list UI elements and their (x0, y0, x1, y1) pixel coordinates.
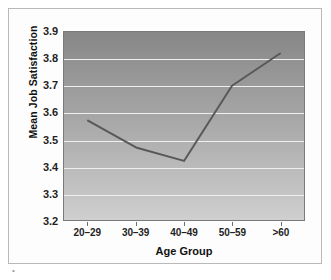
x-tick-label: >60 (253, 227, 309, 238)
y-tick-label: 3.2 (2, 216, 58, 227)
y-tick-label: 3.5 (2, 135, 58, 146)
y-tick-label: 3.8 (2, 53, 58, 64)
x-tick-mark (184, 222, 185, 226)
x-tick-mark (87, 222, 88, 226)
y-axis-tick-labels: 3.93.83.73.63.53.43.33.2 (0, 31, 58, 221)
x-tick-mark (136, 222, 137, 226)
x-tick-mark (232, 222, 233, 226)
y-tick-label: 3.9 (2, 26, 58, 37)
plot-area (63, 31, 305, 221)
x-axis-tick-labels: 20–2930–3940–4950–59>60 (63, 227, 305, 241)
series-polyline (88, 53, 280, 160)
scan-artifact-mark: • (12, 268, 17, 274)
x-axis-title: Age Group (63, 245, 305, 257)
chart-figure: Mean Job Satisfaction 3.93.83.73.63.53.4… (0, 0, 331, 280)
y-tick-label: 3.6 (2, 107, 58, 118)
y-tick-label: 3.7 (2, 80, 58, 91)
y-tick-label: 3.3 (2, 189, 58, 200)
data-series-line (64, 32, 304, 220)
x-tick-mark (281, 222, 282, 226)
y-tick-label: 3.4 (2, 162, 58, 173)
